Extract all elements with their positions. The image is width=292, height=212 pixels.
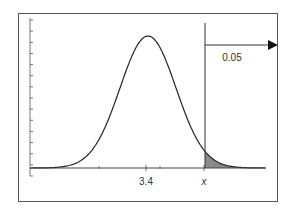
y-axis [30,18,33,176]
arrow-head-icon [268,40,278,50]
critical-value-tick-label: x [201,176,208,187]
normal-distribution-chart: 0.05 3.4 x [0,0,292,212]
chart-frame [19,14,278,202]
tail-area-label: 0.05 [222,52,242,63]
mean-tick-label: 3.4 [139,176,153,187]
tail-arrow [205,40,278,50]
